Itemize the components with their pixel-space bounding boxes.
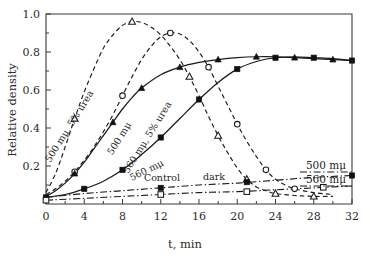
data-point-marker (158, 192, 164, 198)
x-axis-title: t, min (168, 237, 203, 251)
data-point-marker (263, 167, 269, 173)
data-point-marker (158, 135, 163, 140)
x-tick-label: 12 (154, 210, 168, 223)
x-tick-label: 4 (81, 210, 88, 223)
label-control: Control (144, 172, 180, 183)
data-point-marker (321, 184, 327, 190)
data-point-marker (273, 55, 278, 60)
data-point-marker (349, 173, 354, 178)
label-dark: dark (203, 171, 225, 182)
series-markers (71, 18, 317, 199)
y-axis-title: Relative density (5, 63, 19, 157)
data-point-marker (186, 73, 193, 79)
y-tick-label: 0.2 (23, 160, 41, 173)
x-tick-label: 24 (269, 210, 283, 223)
x-tick-label: 20 (230, 210, 244, 223)
x-tick-label: 0 (43, 210, 50, 223)
data-point-marker (311, 55, 316, 60)
data-point-marker (349, 58, 354, 63)
y-tick-label: 1.0 (23, 8, 41, 21)
data-point-marker (196, 97, 201, 102)
data-point-marker (206, 64, 212, 70)
y-tick-label: 0.6 (23, 84, 41, 97)
data-point-marker (82, 186, 87, 191)
legend: 500 mμ560 mμ (300, 159, 352, 186)
x-tick-label: 8 (119, 210, 126, 223)
data-point-marker (120, 93, 126, 99)
data-point-marker (43, 197, 49, 203)
data-point-marker (158, 185, 163, 190)
chart-canvas: 0481216202428320.20.40.60.81.0 500 mμ560… (0, 0, 370, 258)
data-point-marker (215, 132, 222, 138)
data-point-marker (235, 67, 240, 72)
data-point-marker (168, 30, 174, 36)
series-markers (72, 30, 298, 191)
data-point-marker (244, 189, 250, 195)
data-point-marker (244, 180, 249, 185)
label-500: 500 mμ (105, 120, 134, 157)
data-point-marker (234, 121, 240, 127)
x-tick-label: 28 (307, 210, 321, 223)
series-markers (72, 53, 336, 176)
y-tick-label: 0.4 (23, 122, 41, 135)
label-500-urea: 500 mμ, 5% urea (43, 88, 96, 164)
y-tick-label: 0.8 (23, 46, 41, 59)
figure-container: 0481216202428320.20.40.60.81.0 500 mμ560… (0, 0, 370, 258)
legend-label-2: 560 mμ (306, 173, 346, 185)
x-tick-label: 32 (345, 210, 359, 223)
data-point-marker (129, 18, 136, 24)
x-tick-label: 16 (192, 210, 206, 223)
data-point-marker (292, 186, 298, 192)
legend-label-1: 500 mμ (306, 159, 346, 171)
